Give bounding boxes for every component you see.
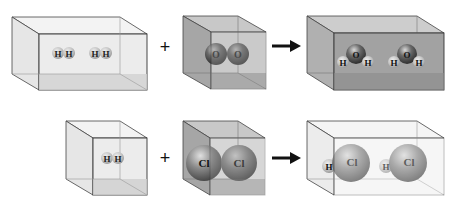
box-hydrogen-chloride-product: H Cl H Cl: [307, 121, 444, 195]
atom-label-h: H: [364, 58, 371, 68]
reaction-arrow: [272, 40, 301, 52]
atom-label-cl: Cl: [199, 157, 210, 169]
atom-label-h: H: [91, 49, 98, 59]
atom-label-h: H: [390, 58, 397, 68]
plus-sign: +: [160, 148, 171, 168]
box-hydrogen-reactant-1: H H H H: [12, 17, 147, 90]
box-hydrogen-reactant-2: H H: [66, 121, 147, 195]
atom-label-o: O: [403, 50, 410, 60]
atom-label-h: H: [325, 162, 332, 172]
atom-label-h: H: [65, 49, 72, 59]
reaction-arrow: [272, 152, 301, 164]
atom-label-h: H: [415, 58, 422, 68]
box-oxygen-reactant: O O: [183, 16, 266, 89]
atom-label-o: O: [352, 50, 359, 60]
chemical-reaction-diagram: H H H H + O O: [0, 0, 459, 208]
box-water-product: O H H O H H: [307, 16, 444, 90]
atom-label-h: H: [54, 49, 61, 59]
atom-label-h: H: [103, 154, 110, 164]
atom-label-h: H: [114, 154, 121, 164]
plus-sign: +: [160, 37, 171, 57]
atom-label-h: H: [339, 58, 346, 68]
box-chlorine-reactant: Cl Cl: [183, 121, 265, 195]
atom-label-h: H: [102, 49, 109, 59]
